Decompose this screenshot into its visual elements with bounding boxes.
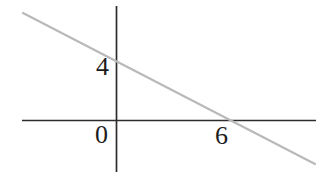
- y-intercept-label: 4: [96, 54, 109, 80]
- plotted-line: [23, 13, 315, 164]
- x-intercept-label: 6: [215, 123, 228, 149]
- line-graph-figure: 4 0 6: [0, 0, 335, 178]
- origin-label: 0: [95, 122, 108, 148]
- graph-canvas: [0, 0, 335, 178]
